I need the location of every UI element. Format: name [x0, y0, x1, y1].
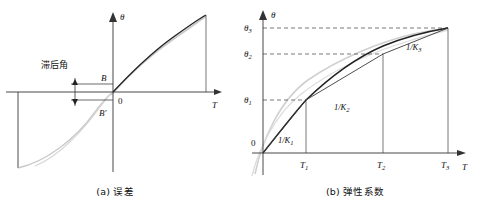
x-tick-t2: T2: [377, 160, 386, 171]
panel-a-caption: (a) 误差: [0, 184, 230, 198]
x-axis-arrow: [214, 89, 222, 95]
panel-b-svg: θ3 θ2 θ1 0 T1 T2 T3 T θ 1/K1 1/K2 1/K3: [230, 0, 480, 201]
secant-segment-1: [263, 100, 306, 153]
x-axis-label: T: [212, 100, 218, 110]
hysteresis-angle-label: 滞后角: [41, 59, 68, 70]
y-tick-theta1: θ1: [244, 95, 252, 106]
x-axis: [6, 89, 222, 95]
panel-elastic-coefficient-diagram: θ3 θ2 θ1 0 T1 T2 T3 T θ 1/K1 1/K2 1/K3 (…: [230, 0, 480, 201]
panel-a-svg: 滞后角 B B' 0 T θ: [0, 0, 230, 201]
slope-label-k3: 1/K3: [406, 42, 422, 53]
panel-b-caption: (b) 弹性系数: [230, 184, 480, 198]
y-tick-theta3: θ3: [244, 23, 252, 34]
origin-label: 0: [251, 138, 256, 148]
slope-label-k2: 1/K2: [334, 102, 350, 113]
y-axis-label: θ: [120, 12, 125, 22]
hysteresis-lower-branch: [18, 92, 113, 168]
y-axis-arrow: [109, 12, 117, 22]
x-axis-arrow: [457, 150, 466, 156]
x-axis: [252, 150, 466, 156]
point-b-label: B: [101, 73, 107, 83]
panel-error-diagram: 滞后角 B B' 0 T θ (a) 误差: [0, 0, 230, 201]
point-b-prime-label: B': [99, 108, 107, 118]
slope-label-k1: 1/K1: [278, 135, 294, 146]
secant-segment-2: [306, 54, 383, 100]
x-tick-t3: T3: [441, 160, 450, 171]
x-tick-t1: T1: [300, 160, 308, 171]
hysteresis-upper-branch-shadow: [111, 16, 206, 95]
figure-root: 滞后角 B B' 0 T θ (a) 误差: [0, 0, 480, 201]
lower-left-frame: [18, 92, 113, 168]
y-axis-label: θ: [271, 10, 276, 20]
y-tick-theta2: θ2: [244, 49, 252, 60]
x-axis-label: T: [462, 162, 468, 172]
origin-label: 0: [118, 96, 123, 106]
y-axis-arrow: [259, 10, 267, 20]
